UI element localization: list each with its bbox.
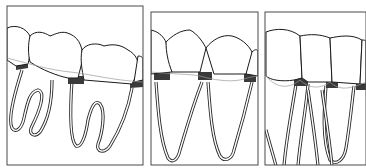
- teeth-diagram: [0, 0, 366, 168]
- crown-incisor-3: [330, 36, 362, 84]
- roots-panel-3: [266, 84, 354, 166]
- panel-1: [7, 6, 143, 165]
- crown-incisor-1: [266, 29, 302, 80]
- crown-premolar-3: [206, 36, 253, 74]
- panel-3: [265, 12, 366, 166]
- crown-molar-2: [29, 32, 83, 78]
- dental-figure: [0, 0, 366, 168]
- panel-2: [151, 12, 258, 165]
- crown-incisor-2: [300, 35, 332, 82]
- panel-frame: [151, 12, 258, 165]
- crown-molar-1: [7, 26, 31, 66]
- crown-premolar-2: [166, 30, 206, 72]
- roots-panel-2: [156, 82, 252, 161]
